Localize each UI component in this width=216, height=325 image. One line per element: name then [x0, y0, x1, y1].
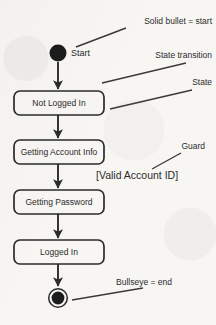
annotation-state-transition: State transition — [155, 50, 212, 60]
states-group: Not Logged In Getting Account Info Getti… — [14, 91, 104, 264]
state-label: Logged In — [40, 247, 78, 257]
state-not-logged-in[interactable]: Not Logged In — [14, 91, 104, 115]
state-logged-in[interactable]: Logged In — [14, 240, 104, 264]
state-label: Getting Account Info — [21, 147, 98, 157]
annotation-guard: Guard — [181, 141, 205, 151]
annotation-bullseye-end: Bullseye = end — [116, 277, 172, 287]
annotation-labels-group: Solid bullet = start State transition St… — [116, 16, 213, 287]
state-diagram-page: Start Not Logged In Getting Account Info… — [0, 0, 216, 325]
state-getting-password[interactable]: Getting Password — [14, 190, 104, 214]
leader-line-state — [110, 90, 192, 109]
state-getting-account-info[interactable]: Getting Account Info — [14, 140, 104, 164]
state-label: Getting Password — [25, 197, 92, 207]
start-bullet-icon — [50, 45, 67, 62]
start-node-label: Start — [71, 48, 91, 58]
end-bullseye-core-icon — [52, 292, 65, 305]
leader-line-guard — [152, 153, 181, 169]
state-label: Not Logged In — [32, 98, 86, 108]
start-node: Start — [50, 45, 91, 62]
end-node — [49, 289, 68, 308]
annotation-state: State — [192, 77, 212, 87]
leader-line-bullseye — [72, 288, 143, 300]
uml-state-diagram-canvas: Start Not Logged In Getting Account Info… — [0, 0, 216, 325]
leader-line-state-transition — [102, 63, 186, 83]
guard-condition-text: [Valid Account ID] — [96, 169, 178, 181]
annotation-solid-bullet-start: Solid bullet = start — [144, 16, 212, 26]
leader-line-solid-bullet — [76, 28, 126, 47]
